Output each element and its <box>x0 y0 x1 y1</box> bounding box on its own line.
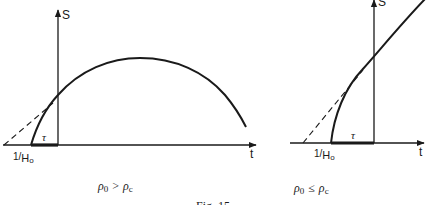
right-intercept-label: 1/Ho <box>314 148 335 162</box>
left-s-label: S <box>62 8 70 22</box>
left-scale-factor-curve <box>31 58 246 145</box>
right-t-label: t <box>419 145 423 159</box>
left-intercept-label: 1/Ho <box>13 151 34 165</box>
left-condition-label: ρ0>ρc <box>97 179 133 194</box>
figure-canvas: S t τ 1/Ho ρ0>ρc S t τ 1/Ho ρ0≤ρc Fig. 1… <box>0 0 426 205</box>
left-tau-label: τ <box>42 131 47 143</box>
right-condition-label: ρ0≤ρc <box>293 181 329 196</box>
right-panel: S t τ 1/Ho ρ0≤ρc <box>290 0 426 196</box>
right-scale-factor-curve <box>331 0 426 143</box>
right-tau-label: τ <box>351 129 356 141</box>
figure-caption: Fig. 15 <box>196 199 230 205</box>
right-s-label: S <box>378 0 386 9</box>
left-t-label: t <box>250 147 254 161</box>
left-panel: S t τ 1/Ho ρ0>ρc <box>3 8 256 194</box>
